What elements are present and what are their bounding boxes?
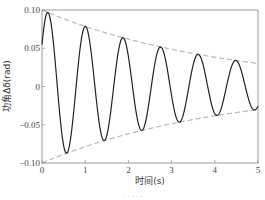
- y-tick-label: −0.10: [19, 158, 40, 168]
- x-tick-label: 1: [83, 165, 88, 175]
- y-tick-label: 0.10: [24, 5, 40, 15]
- x-tick-label: 5: [256, 165, 261, 175]
- upper-envelope-line: [42, 10, 258, 63]
- x-tick-label: 3: [169, 165, 174, 175]
- x-axis-ticks: 012345: [40, 160, 261, 175]
- y-axis-title: 功角Δδ(rad): [1, 60, 12, 112]
- x-axis-title: 时间(s): [135, 175, 165, 186]
- figure-caption: · · · · ·: [0, 193, 265, 200]
- x-tick-label: 4: [213, 165, 218, 175]
- y-tick-label: −0.05: [19, 120, 40, 130]
- damped-oscillation-chart: 0.100.050−0.05−0.10 012345 时间(s) 功角Δδ(ra…: [0, 0, 265, 200]
- lower-envelope-line: [42, 110, 258, 163]
- y-tick-label: 0.05: [24, 43, 40, 53]
- y-tick-label: 0: [36, 82, 41, 92]
- y-axis-ticks: 0.100.050−0.05−0.10: [19, 5, 45, 168]
- oscillation-curve: [42, 12, 258, 153]
- x-tick-label: 0: [40, 165, 45, 175]
- x-tick-label: 2: [126, 165, 131, 175]
- plot-frame: [42, 10, 258, 163]
